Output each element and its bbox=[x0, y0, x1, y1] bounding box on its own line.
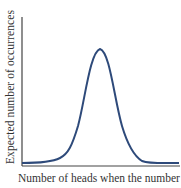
x-axis-label: Number of heads when the number bbox=[18, 172, 181, 184]
y-axis-label: Expected number of occurrences bbox=[4, 14, 18, 164]
distribution-curve bbox=[22, 49, 179, 163]
bell-curve-chart bbox=[0, 0, 181, 188]
